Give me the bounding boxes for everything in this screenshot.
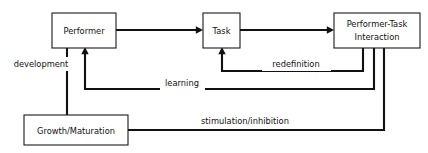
growth-maturation-label: Growth/Maturation	[37, 126, 115, 136]
development-label: development	[14, 59, 69, 69]
edge-label-learning: learning	[160, 76, 205, 90]
performer-task-interaction-label-line2: Interaction	[354, 32, 399, 42]
node-growth-maturation[interactable]: Growth/Maturation	[24, 115, 128, 145]
learning-label: learning	[165, 78, 199, 88]
diagram-svg: Performer Task Performer-Task Interactio…	[0, 0, 428, 153]
performer-task-interaction-label-line1: Performer-Task	[347, 19, 408, 29]
edge-label-stimulation-inhibition: stimulation/inhibition	[190, 114, 300, 128]
redefinition-label: redefinition	[272, 59, 319, 69]
performer-to-task-arrowhead-icon	[196, 26, 203, 33]
task-label: Task	[212, 26, 231, 36]
node-performer-task-interaction[interactable]: Performer-Task Interaction	[334, 13, 420, 48]
edge-performer-to-task	[116, 26, 203, 33]
diagram-canvas: Performer Task Performer-Task Interactio…	[0, 0, 428, 153]
edge-label-development: development	[10, 57, 72, 71]
task-to-interaction-arrowhead-icon	[327, 26, 334, 33]
performer-label: Performer	[63, 26, 105, 36]
edge-label-redefinition: redefinition	[262, 57, 331, 71]
stimulation-inhibition-label: stimulation/inhibition	[201, 116, 289, 126]
edge-task-to-interaction	[240, 26, 334, 33]
node-task[interactable]: Task	[203, 13, 240, 48]
node-performer[interactable]: Performer	[52, 13, 116, 48]
